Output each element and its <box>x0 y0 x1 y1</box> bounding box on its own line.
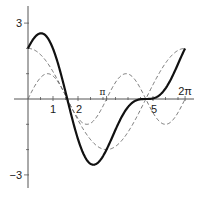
tick-label: 2π <box>178 85 192 97</box>
tick-label: −3 <box>9 169 22 181</box>
function-plot: 12π52π3−3 <box>0 0 207 197</box>
tick-label: 2 <box>76 103 82 115</box>
axes: 12π52π3−3 <box>9 6 194 188</box>
tick-label: 1 <box>50 103 56 115</box>
tick-label: 5 <box>151 103 157 115</box>
tick-label: 3 <box>16 17 22 29</box>
tick-label: π <box>100 87 106 97</box>
